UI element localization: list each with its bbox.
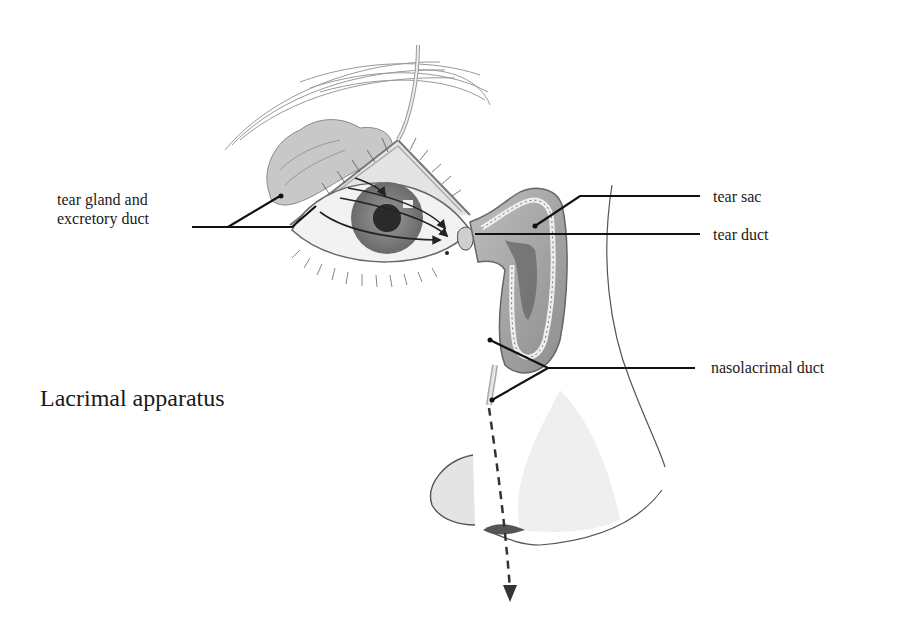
arrowhead-icon (503, 585, 517, 602)
nose (431, 390, 620, 535)
label-tear-gland: tear gland and excretory duct (57, 190, 149, 228)
face-profile (607, 185, 665, 467)
label-tear-duct: tear duct (713, 225, 769, 244)
levator-cord (398, 45, 418, 140)
figure-title: Lacrimal apparatus (40, 385, 225, 412)
label-tear-sac: tear sac (713, 187, 761, 206)
label-tear-gland-line1: tear gland and (57, 190, 149, 209)
label-nasolacrimal-duct: nasolacrimal duct (711, 358, 824, 377)
lacrimal-sac-and-duct (470, 188, 567, 405)
drainage-arrow (489, 408, 510, 590)
label-tear-gland-line2: excretory duct (57, 209, 149, 228)
lacrimal-apparatus-illustration (0, 0, 916, 636)
